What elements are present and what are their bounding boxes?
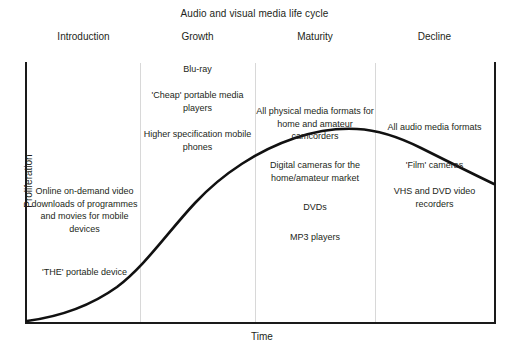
- y-axis-title: Proliferation: [23, 116, 35, 246]
- chart-title: Audio and visual media life cycle: [0, 7, 509, 20]
- annotation-growth-1: Blu-ray: [140, 63, 255, 76]
- plot-area: Online on-demand video downloads of prog…: [27, 63, 494, 322]
- x-axis-title: Time: [27, 331, 497, 343]
- annotation-decline-3: VHS and DVD video recorders: [375, 185, 494, 210]
- life-cycle-chart-figure: Audio and visual media life cycle Introd…: [0, 0, 509, 351]
- annotation-intro-1: Online on-demand video downloads of prog…: [29, 185, 140, 235]
- annotation-intro-2: 'THE' portable device: [29, 266, 140, 279]
- annotation-maturity-2: Digital cameras for the home/amateur mar…: [255, 159, 375, 184]
- annotation-decline-1: All audio media formats: [375, 121, 494, 134]
- stage-label-maturity: Maturity: [255, 30, 375, 44]
- annotation-maturity-3: DVDs: [255, 201, 375, 214]
- annotation-layer: Online on-demand video downloads of prog…: [27, 63, 494, 322]
- annotation-growth-3: Higher specification mobile phones: [140, 128, 255, 153]
- annotation-maturity-4: MP3 players: [255, 231, 375, 244]
- right-border-line: [494, 62, 496, 323]
- stage-label-row: Introduction Growth Maturity Decline: [27, 30, 494, 44]
- stage-label-decline: Decline: [375, 30, 494, 44]
- annotation-growth-2: 'Cheap' portable media players: [140, 89, 255, 114]
- stage-label-introduction: Introduction: [27, 30, 140, 44]
- annotation-decline-2: 'Film' cameras: [375, 159, 494, 172]
- stage-label-growth: Growth: [140, 30, 255, 44]
- annotation-maturity-1: All physical media formats for home and …: [255, 105, 375, 143]
- x-axis-line: [25, 322, 496, 324]
